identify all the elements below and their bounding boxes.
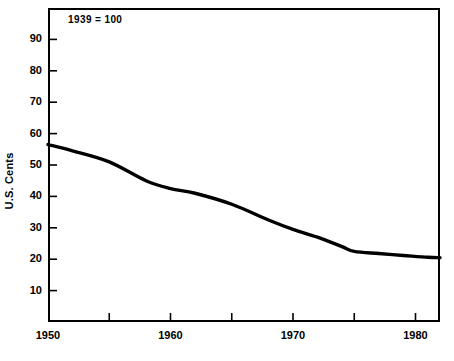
y-axis-title-text: U.S. Cents xyxy=(2,152,14,209)
y-tick-label: 70 xyxy=(16,96,42,107)
x-tick-label: 1970 xyxy=(263,330,323,341)
y-axis-tick-labels: 102030405060708090 xyxy=(14,0,42,361)
x-tick-label: 1960 xyxy=(141,330,201,341)
y-tick-label: 90 xyxy=(16,33,42,44)
chart-container: U.S. Cents 102030405060708090 1939 = 100… xyxy=(0,0,454,361)
index-base-annotation: 1939 = 100 xyxy=(68,14,122,25)
plot-area xyxy=(48,8,440,322)
x-axis-tick-labels: 1950196019701980 xyxy=(0,330,454,348)
y-tick-label: 80 xyxy=(16,65,42,76)
y-tick-label: 60 xyxy=(16,128,42,139)
y-tick-label: 10 xyxy=(16,285,42,296)
y-tick-label: 50 xyxy=(16,159,42,170)
x-tick-label: 1950 xyxy=(18,330,78,341)
y-tick-label: 20 xyxy=(16,253,42,264)
y-tick-label: 30 xyxy=(16,222,42,233)
x-tick-label: 1980 xyxy=(386,330,446,341)
y-tick-label: 40 xyxy=(16,190,42,201)
